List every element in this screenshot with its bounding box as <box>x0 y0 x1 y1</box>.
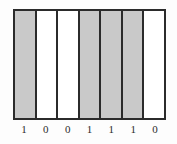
bar-label-2: 0 <box>57 122 79 140</box>
bar-label-0: 1 <box>13 122 35 140</box>
binary-bar-pattern-figure: 1 0 0 1 1 1 0 <box>0 0 177 144</box>
bar-cell-1 <box>37 11 59 118</box>
bar-cell-3 <box>80 11 102 118</box>
bar-cell-5 <box>123 11 145 118</box>
bar-label-4: 1 <box>100 122 122 140</box>
bar-label-6: 0 <box>144 122 166 140</box>
bar-strip <box>13 9 166 120</box>
bar-label-1: 0 <box>35 122 57 140</box>
bar-cell-2 <box>58 11 80 118</box>
bar-label-5: 1 <box>122 122 144 140</box>
bar-cell-0 <box>15 11 37 118</box>
bar-label-row: 1 0 0 1 1 1 0 <box>13 122 166 140</box>
bar-cell-4 <box>101 11 123 118</box>
bar-label-3: 1 <box>79 122 101 140</box>
bar-cell-6 <box>144 11 164 118</box>
